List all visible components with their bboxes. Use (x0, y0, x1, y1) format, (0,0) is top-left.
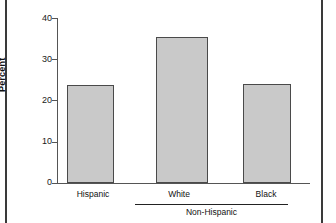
y-tick-label-20: 20 (42, 96, 52, 105)
x-tick-label-hispanic: Hispanic (58, 190, 128, 199)
group-bracket-rule (135, 204, 288, 205)
bar-white (156, 37, 208, 183)
group-bracket-label: Non-Hispanic (135, 208, 288, 217)
bar-black (243, 84, 291, 183)
x-tick-label-black: Black (235, 190, 297, 199)
y-tick-0 (52, 183, 57, 184)
y-tick-30 (52, 59, 57, 60)
y-tick-label-40: 40 (42, 14, 52, 23)
y-axis-tick-labels: 40 30 20 10 0 (30, 18, 52, 183)
page-rule-left (5, 0, 7, 223)
page-rule-right (321, 0, 323, 223)
y-tick-20 (52, 100, 57, 101)
y-tick-label-10: 10 (42, 137, 52, 146)
x-tick-label-white: White (148, 190, 210, 199)
y-axis-title: Percent (0, 58, 7, 92)
y-axis-line (57, 18, 58, 183)
chart-figure: 40 30 20 10 0 Percent Hispanic White Bla… (0, 0, 336, 223)
y-tick-label-30: 30 (42, 55, 52, 64)
y-tick-10 (52, 142, 57, 143)
y-tick-40 (52, 18, 57, 19)
x-axis-line (57, 183, 310, 184)
bar-hispanic (67, 85, 114, 183)
plot-area (57, 18, 310, 183)
